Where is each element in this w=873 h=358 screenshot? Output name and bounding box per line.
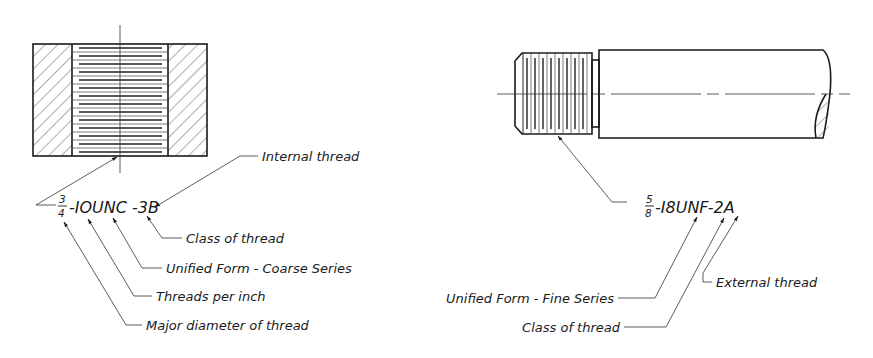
fraction-numerator: 5 bbox=[646, 193, 653, 205]
fraction-denominator: 8 bbox=[645, 207, 652, 219]
fraction-numerator: 3 bbox=[59, 193, 66, 205]
label-class-of-thread-external: Class of thread bbox=[522, 320, 621, 335]
right-wall-hatch bbox=[168, 44, 207, 156]
left-wall-hatch bbox=[33, 44, 72, 156]
fraction-denominator: 4 bbox=[58, 207, 65, 219]
callout-code: -I8UNF-2A bbox=[655, 198, 735, 217]
external-thread-shaft-drawing bbox=[497, 50, 850, 140]
label-unified-coarse: Unified Form - Coarse Series bbox=[166, 261, 352, 276]
label-class-of-thread-internal: Class of thread bbox=[186, 231, 285, 246]
thread-notation-diagram: 3 4 -IOUNC -3B Internal thread Class of … bbox=[0, 0, 873, 358]
callout-code: -IOUNC -3B bbox=[69, 198, 159, 217]
label-threads-per-inch: Threads per inch bbox=[156, 289, 266, 304]
internal-thread-callout: 3 4 -IOUNC -3B bbox=[58, 193, 159, 219]
label-unified-fine: Unified Form - Fine Series bbox=[446, 291, 614, 306]
external-thread-callout: 5 8 -I8UNF-2A bbox=[645, 193, 735, 219]
label-external-thread: External thread bbox=[716, 275, 818, 290]
label-major-diameter: Major diameter of thread bbox=[146, 318, 310, 333]
internal-thread-section-drawing bbox=[33, 25, 207, 173]
label-internal-thread: Internal thread bbox=[262, 149, 360, 164]
